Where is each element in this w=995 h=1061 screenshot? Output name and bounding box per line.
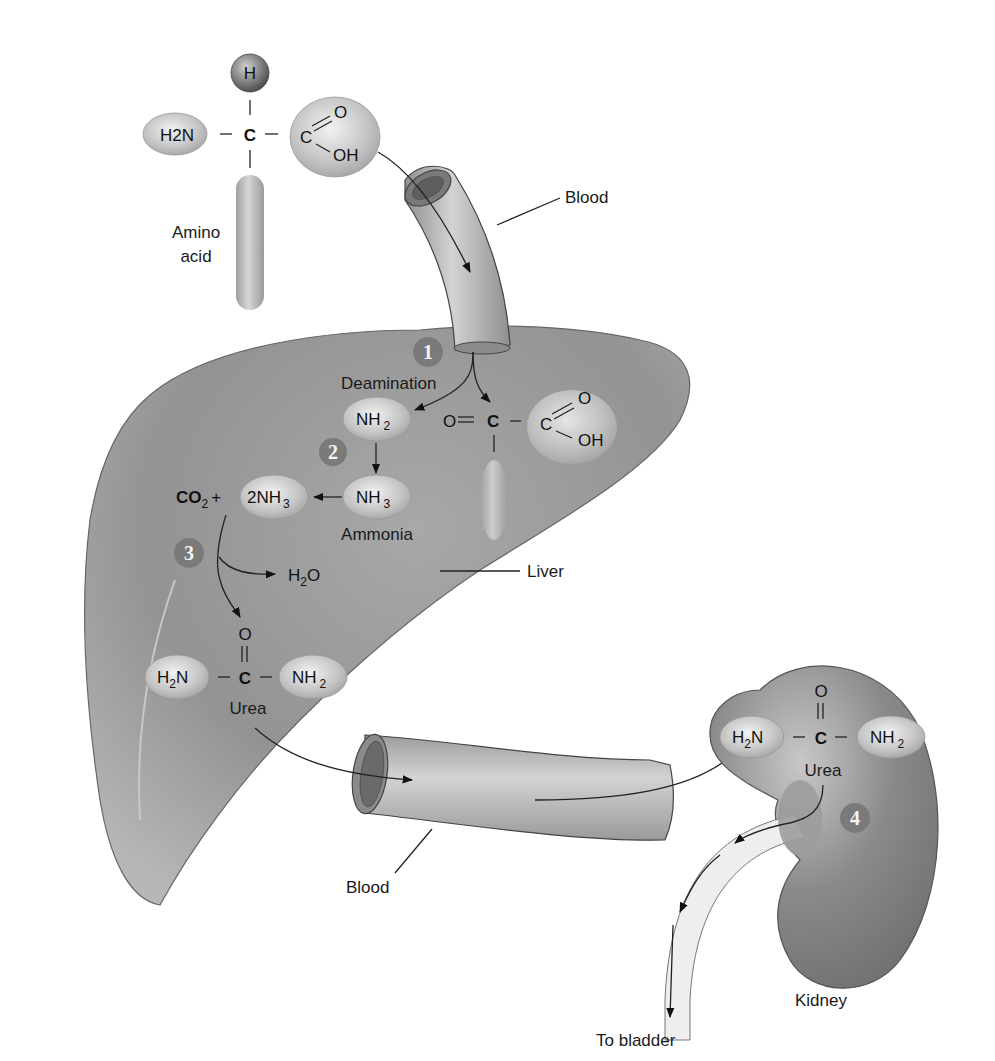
svg-text:C: C bbox=[815, 729, 827, 748]
svg-text:4: 4 bbox=[850, 807, 860, 829]
blood-vessel-bottom bbox=[348, 732, 674, 840]
side-chain-rod bbox=[236, 175, 264, 310]
blood-vessel-top bbox=[399, 163, 510, 354]
svg-text:C: C bbox=[487, 412, 499, 431]
svg-text:C: C bbox=[540, 415, 552, 434]
svg-text:O: O bbox=[334, 103, 347, 122]
svg-text:O: O bbox=[443, 412, 456, 431]
svg-text:2: 2 bbox=[328, 441, 338, 463]
urea-kidney-label: Urea bbox=[805, 761, 842, 780]
deamination-label: Deamination bbox=[341, 374, 436, 393]
blood-bottom-leader bbox=[395, 829, 432, 873]
svg-text:O: O bbox=[578, 389, 591, 408]
svg-text:1: 1 bbox=[423, 341, 433, 363]
svg-text:O: O bbox=[238, 625, 251, 644]
urea-cycle-diagram: H H2N C C O OH Amino acid Blood 1 Deamin… bbox=[0, 0, 995, 1061]
kidney-label: Kidney bbox=[795, 991, 847, 1010]
blood-top-label: Blood bbox=[565, 188, 608, 207]
svg-text:OH: OH bbox=[578, 431, 604, 450]
svg-text:O: O bbox=[814, 682, 827, 701]
blood-bottom-label: Blood bbox=[346, 878, 389, 897]
amino-acid-molecule: H H2N C C O OH Amino acid bbox=[143, 54, 380, 310]
urea-liver-label: Urea bbox=[230, 699, 267, 718]
svg-text:H: H bbox=[244, 64, 256, 83]
svg-text:3: 3 bbox=[184, 542, 194, 564]
svg-text:acid: acid bbox=[180, 247, 211, 266]
blood-top-leader bbox=[497, 198, 560, 225]
renal-pelvis bbox=[778, 780, 822, 856]
svg-text:H2N: H2N bbox=[160, 126, 194, 145]
amino-acid-label: Amino bbox=[172, 223, 220, 242]
liver-label: Liver bbox=[527, 562, 564, 581]
svg-text:C: C bbox=[300, 128, 312, 147]
ammonia-label: Ammonia bbox=[341, 525, 413, 544]
keto-side-chain bbox=[480, 460, 508, 540]
svg-text:C: C bbox=[239, 669, 251, 688]
svg-text:C: C bbox=[244, 126, 256, 145]
to-bladder-label: To bladder bbox=[596, 1031, 676, 1050]
svg-text:OH: OH bbox=[333, 146, 359, 165]
